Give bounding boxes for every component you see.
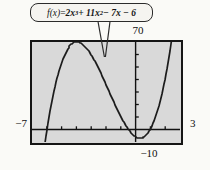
- y-max-label: 70: [126, 24, 150, 37]
- x-min-label: −7: [8, 117, 27, 130]
- formula-fx: f(x): [47, 8, 60, 18]
- formula-term-1: 2x: [66, 8, 76, 18]
- plot-area: [32, 42, 180, 142]
- formula-term-2: + 11x: [78, 8, 100, 18]
- x-max-label: 3: [190, 117, 202, 130]
- formula-term-3: − 7x − 6: [103, 8, 136, 18]
- plot-frame: [30, 40, 183, 145]
- function-graph-figure: f(x) = 2x3 + 11x2 − 7x − 6 70 −10 −7 3: [0, 0, 210, 170]
- formula-callout: f(x) = 2x3 + 11x2 − 7x − 6: [30, 3, 153, 22]
- y-min-label: −10: [136, 147, 162, 160]
